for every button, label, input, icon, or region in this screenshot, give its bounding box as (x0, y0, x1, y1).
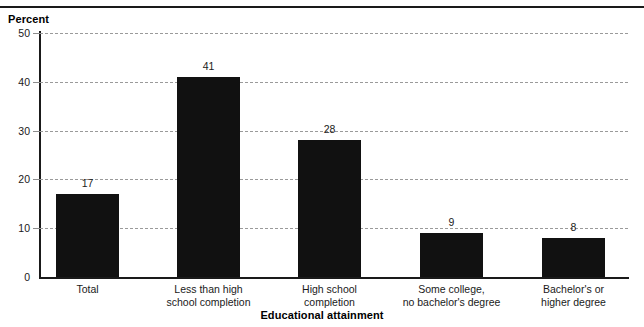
bar-chart: Percent 01020304050 17412898 TotalLess t… (0, 0, 644, 327)
x-axis-line (39, 277, 629, 279)
x-tick-label: Some college,no bachelor's degree (382, 283, 522, 308)
bar-value-label: 41 (177, 60, 240, 72)
bar-value-label: 8 (542, 221, 605, 233)
bar-group: 17 (56, 33, 119, 277)
bar[interactable] (298, 140, 361, 277)
x-tick-label: Total (18, 283, 158, 296)
x-axis-title: Educational attainment (0, 309, 644, 321)
x-tick-label-line: no bachelor's degree (382, 296, 522, 309)
x-tick-label-line: higher degree (504, 296, 644, 309)
x-tick-label-line: Total (18, 283, 158, 296)
x-tick-label-line: completion (260, 296, 400, 309)
bar-group: 8 (542, 33, 605, 277)
x-tick-label: Bachelor's orhigher degree (504, 283, 644, 308)
x-tick-label-line: Some college, (382, 283, 522, 296)
bars-layer: 17412898 (0, 33, 644, 277)
bar[interactable] (177, 77, 240, 277)
x-tick-label-line: Less than high (139, 283, 279, 296)
bar[interactable] (56, 194, 119, 277)
x-tick-label-line: school completion (139, 296, 279, 309)
top-divider-rule (0, 6, 644, 8)
x-tick-label-line: High school (260, 283, 400, 296)
bar-value-label: 9 (420, 216, 483, 228)
bar-group: 9 (420, 33, 483, 277)
x-tick-label: Less than highschool completion (139, 283, 279, 308)
x-tick-label-line: Bachelor's or (504, 283, 644, 296)
bar-value-label: 28 (298, 123, 361, 135)
bar-group: 41 (177, 33, 240, 277)
bar-group: 28 (298, 33, 361, 277)
bar[interactable] (542, 238, 605, 277)
bar[interactable] (420, 233, 483, 277)
bar-value-label: 17 (56, 177, 119, 189)
x-tick-label: High schoolcompletion (260, 283, 400, 308)
